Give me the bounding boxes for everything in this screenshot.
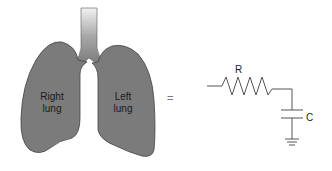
lungs-circuit-diagram bbox=[0, 0, 332, 171]
left-lung-label: Left lung bbox=[106, 91, 140, 115]
resistor-label: R bbox=[235, 64, 242, 75]
right-lung-label: Right lung bbox=[32, 91, 72, 115]
left-lung-label-line1: Left bbox=[106, 91, 140, 103]
capacitor-label: C bbox=[306, 112, 313, 123]
trachea bbox=[75, 8, 104, 64]
right-lung-label-line2: lung bbox=[32, 103, 72, 115]
rc-circuit bbox=[207, 77, 303, 145]
left-lung-label-line2: lung bbox=[106, 103, 140, 115]
equals-sign: = bbox=[167, 92, 173, 104]
resistor bbox=[207, 77, 292, 110]
right-lung-label-line1: Right bbox=[32, 91, 72, 103]
